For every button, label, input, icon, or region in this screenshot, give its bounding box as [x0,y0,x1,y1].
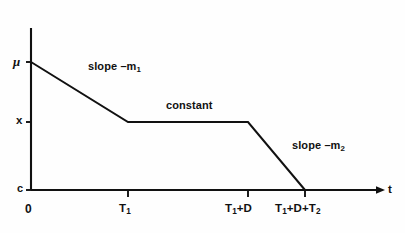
piecewise-decay-curve [31,62,305,190]
annotation-slope-m1-text: slope –m [88,60,137,72]
y-axis-label-mu: μ [13,55,20,68]
x-axis-label-t1d-rest: +D [237,202,252,214]
annotation-slope-m1-subscript: 1 [137,65,141,74]
x-axis-label-t1dt2-mid: +D+T [287,202,316,214]
annotation-constant: constant [166,100,213,111]
x-axis-label-t1-plus-d: T1+D [225,203,252,216]
annotation-slope-m2-subscript: 2 [341,144,345,153]
x-axis-name-label: t [388,184,392,196]
plot-svg [0,0,405,233]
x-axis-label-origin: 0 [25,203,32,215]
x-axis-arrowhead-icon [376,186,385,194]
y-axis-label-c: c [17,183,23,194]
annotation-slope-m1: slope –m1 [88,61,141,74]
x-axis-label-t1dt2-subscript-2: 2 [316,207,321,216]
x-axis-label-t1-subscript: 1 [126,207,131,216]
y-axis-label-x: x [16,115,23,127]
annotation-slope-m2-text: slope –m [292,139,341,151]
annotation-slope-m2: slope –m2 [292,140,345,153]
x-axis-label-t1: T1 [119,203,131,216]
x-axis-label-t1-plus-d-plus-t2: T1+D+T2 [275,203,321,216]
figure-container: μ x c 0 T1 T1+D T1+D+T2 t slope –m1 cons… [0,0,405,233]
